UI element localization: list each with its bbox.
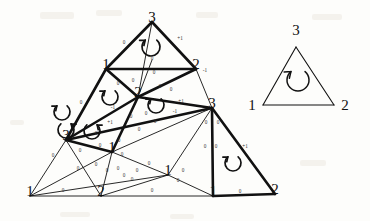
edge-cochain-label: 0 [121, 151, 124, 157]
edge-cochain-label: 0 [52, 152, 55, 158]
edge-cochain-label: 0 [106, 167, 109, 173]
edge-cochain-label: 0 [205, 119, 208, 125]
complex-drawing: 0+1000000-1+1-10-1+100000000000000000000… [0, 0, 370, 221]
reference-triangle-edge [263, 47, 296, 105]
edge-cochain-label: 0 [77, 165, 80, 171]
vertex-label-3: 3 [62, 127, 70, 143]
edge-cochain-label: 0 [80, 99, 83, 105]
vertex-label-1: 1 [164, 162, 172, 178]
edge-cochain-label: 0 [148, 160, 151, 166]
reference-vertex-label-1: 1 [248, 97, 256, 113]
complex-edge-thick [66, 108, 212, 140]
edge-cochain-label: 0 [130, 113, 133, 119]
edge-cochain-label: 0 [99, 142, 102, 148]
edge-cochain-label: +1 [242, 143, 248, 149]
reference-vertex-label-2: 2 [341, 97, 349, 113]
edge-cochain-label: 0 [131, 176, 134, 182]
complex-edge-thin [112, 108, 212, 152]
edge-cochain-label: 0 [177, 177, 180, 183]
vertex-label-2: 2 [97, 183, 105, 199]
complex-edge-thin [30, 140, 66, 196]
edge-cochain-label: -1 [173, 108, 178, 114]
complex-edge-thick [212, 108, 275, 194]
edge-cochain-label: 0 [239, 188, 242, 194]
edge-cochain-label: 0 [145, 110, 148, 116]
edge-cochain-label: 0 [182, 167, 185, 173]
vertex-label-2: 2 [271, 181, 279, 197]
complex-edge-thin [168, 175, 213, 196]
edge-cochain-label: 0 [118, 137, 121, 143]
vertex-label-3: 3 [148, 9, 156, 25]
complex-edge-thick [106, 22, 152, 69]
vertex-label-2: 2 [192, 56, 200, 72]
edge-cochain-label: 0 [151, 187, 154, 193]
vertex-label-1: 1 [108, 139, 116, 155]
figure-canvas: 0+1000000-1+1-10-1+100000000000000000000… [0, 0, 370, 221]
complex-edge-thick [106, 69, 138, 97]
reference-vertex-label-3: 3 [292, 22, 300, 38]
edge-cochain-label: 0 [123, 172, 126, 178]
edge-cochain-label: 0 [217, 119, 220, 125]
edge-cochain-label: 0 [95, 130, 98, 136]
edge-cochain-label: 0 [79, 147, 82, 153]
edge-cochain-label: 0 [117, 165, 120, 171]
edge-cochain-label: 0 [170, 86, 173, 92]
edge-cochain-label: 0 [159, 83, 162, 89]
edge-cochain-label: +1 [107, 119, 113, 125]
edge-cochain-label: 0 [154, 118, 157, 124]
vertex-label-2: 2 [134, 84, 142, 100]
edge-cochain-label: +1 [178, 98, 184, 104]
edge-cochain-label: 0 [215, 143, 218, 149]
edge-cochain-label: 0 [153, 69, 156, 75]
edge-cochain-label: +1 [177, 35, 183, 41]
edge-cochain-label: 0 [136, 167, 139, 173]
edge-cochain-label: 0 [123, 39, 126, 45]
edge-cochain-label: 0 [62, 187, 65, 193]
edge-cochain-label: 0 [138, 126, 141, 132]
edge-cochain-label: 0 [204, 143, 207, 149]
complex-edge-thick [152, 22, 196, 69]
complex-edge-thick [213, 194, 275, 196]
complex-edge-thin [101, 175, 168, 196]
vertex-label-1: 1 [102, 56, 110, 72]
edge-cochain-label: 0 [117, 80, 120, 86]
vertex-label-1: 1 [209, 183, 217, 199]
edge-cochain-label: -1 [203, 67, 208, 73]
edge-cochain-label: 0 [151, 55, 154, 61]
edge-cochain-label: -1 [111, 104, 116, 110]
edge-cochain-label: 0 [132, 77, 135, 83]
vertex-label-3: 3 [208, 95, 216, 111]
vertex-label-1: 1 [26, 183, 34, 199]
reference-triangle-edge [296, 47, 334, 105]
edge-cochain-label: 0 [95, 161, 98, 167]
